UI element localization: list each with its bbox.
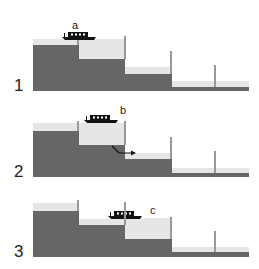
panel-number-3: 3 — [14, 242, 23, 261]
panel-1: a 1 — [14, 19, 249, 95]
boat-label-c: c — [150, 204, 156, 216]
boat-icon — [84, 115, 118, 123]
ground-step-1 — [33, 211, 79, 257]
water-bottom-pound — [172, 81, 249, 87]
panel-number-1: 1 — [14, 76, 23, 95]
ground-step-1 — [33, 45, 79, 91]
panel-number-2: 2 — [14, 162, 23, 181]
ground-step-4 — [172, 87, 249, 91]
gate-2 — [124, 36, 126, 59]
gate-1 — [77, 200, 79, 211]
ground-step-3 — [125, 239, 172, 257]
boat-label-a: a — [72, 19, 79, 31]
boat-icon — [62, 32, 96, 40]
panel-2: b 2 — [14, 104, 249, 181]
ground-step-3 — [125, 74, 172, 91]
gate-4 — [214, 231, 216, 252]
water-bottom-pound — [172, 168, 249, 173]
ground-step-2 — [79, 59, 125, 91]
ground-step-2 — [79, 145, 125, 177]
water-bottom-pound — [172, 247, 249, 252]
gate-3 — [170, 51, 172, 74]
ground-step-3 — [125, 159, 172, 177]
panel-3: c 3 — [14, 200, 249, 261]
gate-3 — [170, 137, 172, 159]
water-lock-2 — [125, 218, 172, 239]
water-lock-1 — [79, 123, 125, 145]
gate-3 — [170, 217, 172, 239]
gate-2 — [124, 202, 126, 225]
gate-4 — [214, 65, 216, 87]
lock-diagram: a 1 b 2 — [0, 0, 259, 269]
gate-2 — [124, 121, 126, 145]
water-lock-1 — [79, 219, 125, 225]
ground-step-4 — [172, 252, 249, 257]
boat-label-b: b — [120, 104, 126, 116]
gate-1 — [77, 121, 79, 131]
ground-step-2 — [79, 225, 125, 257]
water-lock-2 — [125, 67, 172, 74]
gate-4 — [214, 151, 216, 173]
ground-step-1 — [33, 131, 79, 177]
water-top-pound — [33, 123, 79, 131]
water-top-pound — [33, 203, 79, 211]
water-lock-1 — [79, 39, 125, 59]
ground-step-4 — [172, 173, 249, 177]
